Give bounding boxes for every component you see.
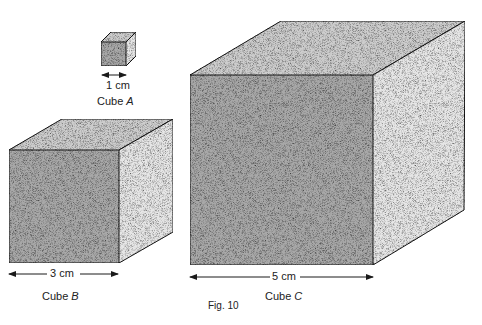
cube-a bbox=[101, 32, 136, 66]
cube-c bbox=[190, 21, 465, 265]
cube-c-dimension-label: 5 cm bbox=[272, 270, 296, 282]
cube-b-front-face bbox=[9, 150, 119, 263]
cube-b-dimension-label: 3 cm bbox=[50, 267, 74, 279]
cube-b-letter: B bbox=[71, 290, 78, 302]
cube-b-name: Cube bbox=[42, 290, 68, 302]
cube-a-letter: A bbox=[126, 95, 133, 107]
figure-caption: Fig. 10 bbox=[208, 300, 239, 311]
cube-c-name: Cube bbox=[265, 290, 291, 302]
cube-a-front-face bbox=[101, 42, 126, 66]
cube-a-name: Cube bbox=[97, 95, 123, 107]
cube-c-letter: C bbox=[294, 290, 302, 302]
cube-b bbox=[9, 119, 173, 263]
cube-c-label: Cube C bbox=[265, 290, 302, 302]
cube-a-label: Cube A bbox=[97, 95, 134, 107]
cube-a-dimension-label: 1 cm bbox=[106, 79, 130, 91]
cube-c-front-face bbox=[190, 75, 373, 265]
cube-b-label: Cube B bbox=[42, 290, 79, 302]
